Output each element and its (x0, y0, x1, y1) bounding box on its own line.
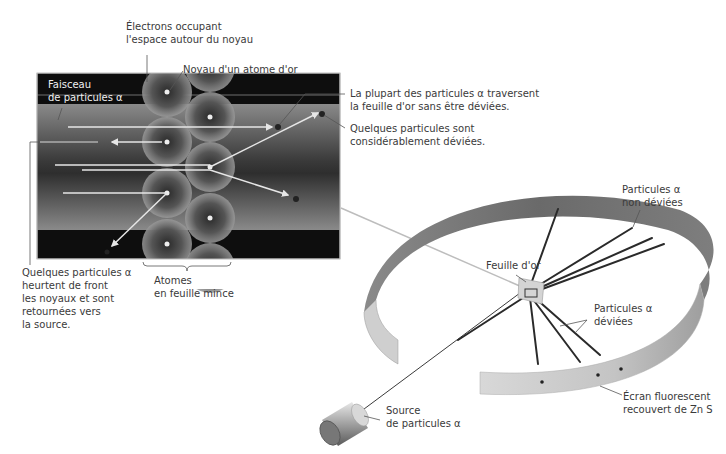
undeflected-label: Particules α non déviées (622, 183, 683, 209)
most-pass-label: La plupart des particules α traversent l… (350, 87, 539, 113)
head-on-label: Quelques particules α heurtent de front … (22, 266, 131, 331)
deflected-label: Particules α déviées (594, 302, 652, 328)
gold-foil-label: Feuille d'or (486, 259, 541, 272)
source-label: Source de particules α (386, 404, 461, 430)
some-deflected-label: Quelques particules sont considérablemen… (350, 122, 485, 148)
nucleus-label: Noyau d'un atome d'or (183, 63, 298, 76)
beam-label: Faisceau de particules α (48, 78, 123, 104)
electrons-label: Électrons occupant l'espace autour du no… (126, 20, 253, 46)
atoms-label: Atomes en feuille mince (154, 274, 234, 300)
screen-label: Écran fluorescent recouvert de Zn S (623, 390, 713, 416)
source-cylinder (316, 401, 372, 449)
rutherford-diagram (0, 0, 726, 454)
